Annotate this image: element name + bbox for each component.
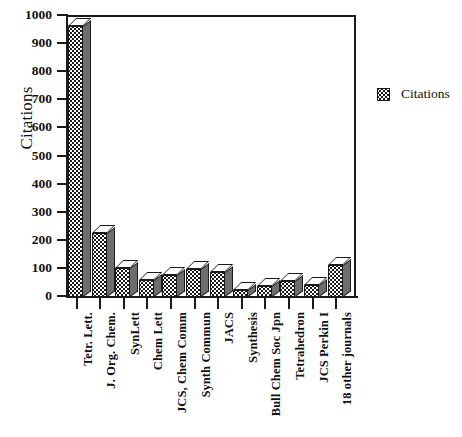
bar-side-face <box>130 263 138 297</box>
bar-side-face <box>83 20 91 297</box>
y-axis-tick-label: 200 <box>10 233 52 247</box>
y-axis-tick <box>57 211 68 213</box>
bar-side-face <box>201 264 209 297</box>
bar <box>328 16 351 297</box>
x-axis-tick <box>146 298 148 309</box>
x-axis-tick-label: Tetr. Lett. <box>81 312 96 366</box>
x-axis-tick <box>335 298 337 309</box>
y-axis-tick-label: 600 <box>10 120 52 134</box>
x-axis-tick <box>76 298 78 309</box>
x-axis-tick-label: JCS, Chem Comm <box>175 312 190 413</box>
bar-front-face <box>280 281 295 297</box>
bar <box>92 16 115 297</box>
bar-front-face <box>233 290 248 297</box>
y-axis-tick <box>57 42 68 44</box>
bar <box>233 16 256 297</box>
x-axis-tick <box>312 298 314 309</box>
y-axis-tick <box>57 155 68 157</box>
bar <box>210 16 233 297</box>
y-axis-tick <box>57 14 68 16</box>
x-axis-tick-label: JACS <box>222 312 237 344</box>
y-axis-tick <box>57 267 68 269</box>
bar <box>280 16 303 297</box>
bar <box>68 16 91 297</box>
bar <box>257 16 280 297</box>
x-axis-tick-label: Bull Chem Soc Jpn <box>269 312 284 416</box>
bar-group <box>68 15 356 297</box>
x-axis-tick-label: SynLett <box>128 312 143 355</box>
bar-front-face <box>304 285 319 297</box>
citations-bar-chart: Citations 100090080070060050040030020010… <box>0 0 462 437</box>
legend-swatch-citations <box>377 88 390 101</box>
bar <box>139 16 162 297</box>
y-axis-tick-label: 100 <box>10 261 52 275</box>
y-axis-tick <box>57 183 68 185</box>
bar-front-face <box>162 275 177 297</box>
legend: Citations <box>377 86 450 102</box>
bar-side-face <box>343 259 351 297</box>
bar <box>304 16 327 297</box>
x-axis-tick <box>170 298 172 309</box>
bar-front-face <box>68 26 83 297</box>
y-axis-tick-label: 500 <box>10 149 52 163</box>
x-axis-tick <box>123 298 125 309</box>
x-axis-tick <box>264 298 266 309</box>
x-axis-tick-label: JCS Perkin I <box>317 312 332 383</box>
bar-front-face <box>328 265 343 297</box>
bar <box>186 16 209 297</box>
x-axis-tick-label: 18 other journals <box>340 312 355 405</box>
y-axis-tick <box>57 70 68 72</box>
x-axis-tick <box>217 298 219 309</box>
y-axis-tick <box>57 126 68 128</box>
bar-front-face <box>186 269 201 297</box>
legend-label-citations: Citations <box>401 86 450 102</box>
bar-front-face <box>210 272 225 297</box>
x-axis-tick <box>99 298 101 309</box>
y-axis-tick <box>57 239 68 241</box>
y-axis-tick-label: 900 <box>10 36 52 50</box>
x-axis-tick-label: Chem Lett <box>151 312 166 370</box>
x-axis-tick <box>288 298 290 309</box>
y-axis-tick-label: 0 <box>10 289 52 303</box>
bar <box>162 16 185 297</box>
y-axis-tick-label: 400 <box>10 177 52 191</box>
bar-side-face <box>107 227 115 297</box>
x-axis-tick-label: Tetrahedron <box>293 312 308 380</box>
bar-front-face <box>92 233 107 297</box>
y-axis-tick-label: 700 <box>10 92 52 106</box>
bar-front-face <box>115 268 130 297</box>
bar <box>115 16 138 297</box>
bar-front-face <box>139 280 154 297</box>
x-axis-tick-label: J. Org. Chem. <box>104 312 119 389</box>
x-axis-tick-label: Synthesis <box>246 312 261 363</box>
y-axis-tick <box>57 98 68 100</box>
x-axis-tick-label: Synth Commun <box>199 312 214 398</box>
y-axis-tick <box>57 295 68 297</box>
y-axis-tick-label: 800 <box>10 64 52 78</box>
bar-front-face <box>257 286 272 297</box>
x-axis-tick <box>194 298 196 309</box>
x-axis-tick <box>241 298 243 309</box>
y-axis-tick-label: 300 <box>10 205 52 219</box>
y-axis-tick-label: 1000 <box>10 8 52 22</box>
